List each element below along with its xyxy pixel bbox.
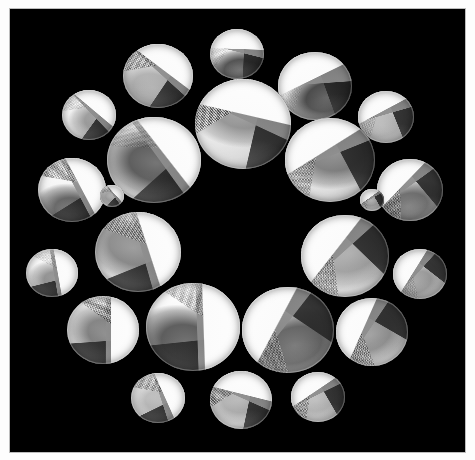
lens-disc [26,249,78,297]
lens-disc [95,212,181,292]
lens-rim [26,249,78,297]
artwork-root [0,0,475,460]
lens-disc [301,215,389,297]
lens-disc [146,283,240,371]
lens-disc [210,29,264,79]
lens-rim [336,298,408,366]
lens-disc [67,296,139,364]
black-canvas-plate [10,9,465,452]
lens-disc [123,44,193,108]
lens-disc [336,298,408,366]
lens-rim [210,371,272,429]
lens-rim [393,249,447,299]
lens-rim [146,283,240,371]
lens-disc [210,371,272,429]
lens-rim [100,185,124,207]
lens-rim [301,215,389,297]
lens-disc [195,79,291,169]
lens-rim [377,159,443,221]
lens-rim [131,373,185,423]
lens-rim [123,44,193,108]
lens-disc [131,373,185,423]
lens-rim [67,296,139,364]
lens-rim [210,29,264,79]
lens-disc [291,372,345,422]
lens-rim [360,189,384,211]
lens-rim [195,79,291,169]
lens-disc [393,249,447,299]
lens-rim [95,212,181,292]
lens-disc [360,189,384,211]
lens-rim [242,287,334,373]
lens-rim [291,372,345,422]
lens-disc [242,287,334,373]
lens-disc [377,159,443,221]
lens-disc [100,185,124,207]
